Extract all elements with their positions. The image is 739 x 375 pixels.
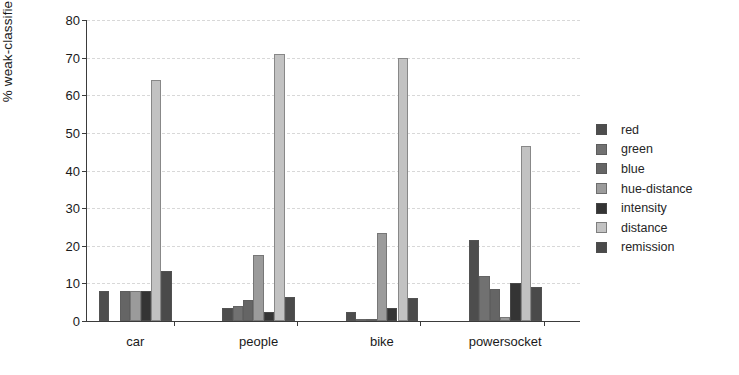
bar bbox=[120, 291, 130, 321]
y-tick-mark bbox=[82, 95, 87, 96]
legend-swatch-icon bbox=[596, 144, 607, 155]
y-tick-mark bbox=[82, 208, 87, 209]
bar bbox=[521, 146, 531, 321]
x-axis-group-label: car bbox=[126, 334, 144, 349]
x-axis-group-label: people bbox=[239, 334, 278, 349]
y-tick-label: 50 bbox=[66, 125, 80, 140]
bar bbox=[346, 312, 356, 321]
x-tick-mark bbox=[174, 321, 175, 326]
bar bbox=[479, 276, 489, 321]
bar bbox=[274, 54, 284, 321]
y-tick-mark bbox=[82, 283, 87, 284]
x-tick-mark bbox=[297, 321, 298, 326]
bar bbox=[531, 287, 541, 321]
y-tick-mark bbox=[82, 246, 87, 247]
legend-item: hue-distance bbox=[596, 179, 736, 199]
bar-chart-figure: % weak-classifier weights 01020304050607… bbox=[0, 0, 739, 375]
legend-label: blue bbox=[621, 162, 645, 176]
legend-item: intensity bbox=[596, 198, 736, 218]
bars-layer bbox=[87, 20, 580, 321]
legend-item: distance bbox=[596, 218, 736, 238]
y-tick-label: 0 bbox=[73, 314, 80, 329]
x-axis-group-label: bike bbox=[370, 334, 394, 349]
bar bbox=[151, 80, 161, 321]
x-tick-mark bbox=[544, 321, 545, 326]
bar bbox=[161, 271, 171, 321]
y-tick-label: 70 bbox=[66, 50, 80, 65]
bar bbox=[366, 319, 376, 321]
y-tick-mark bbox=[82, 58, 87, 59]
legend-swatch-icon bbox=[596, 163, 607, 174]
legend-swatch-icon bbox=[596, 242, 607, 253]
y-tick-mark bbox=[82, 171, 87, 172]
bar bbox=[469, 240, 479, 321]
y-tick-label: 10 bbox=[66, 276, 80, 291]
legend-label: green bbox=[621, 142, 653, 156]
legend-item: green bbox=[596, 140, 736, 160]
legend-label: red bbox=[621, 123, 639, 137]
y-tick-label: 40 bbox=[66, 163, 80, 178]
plot-area: 01020304050607080 carpeoplebikepowersock… bbox=[86, 20, 580, 322]
legend-item: red bbox=[596, 120, 736, 140]
y-tick-label: 30 bbox=[66, 201, 80, 216]
y-tick-label: 20 bbox=[66, 238, 80, 253]
legend-label: distance bbox=[621, 221, 668, 235]
legend-label: intensity bbox=[621, 201, 667, 215]
bar bbox=[377, 233, 387, 321]
bar bbox=[408, 298, 418, 321]
legend: redgreenbluehue-distanceintensitydistanc… bbox=[596, 120, 736, 257]
bar bbox=[141, 291, 151, 321]
bar bbox=[99, 291, 109, 321]
bar bbox=[233, 306, 243, 321]
bar bbox=[356, 319, 366, 321]
legend-item: blue bbox=[596, 159, 736, 179]
legend-item: remission bbox=[596, 238, 736, 258]
bar bbox=[264, 312, 274, 321]
y-tick-mark bbox=[82, 20, 87, 21]
legend-swatch-icon bbox=[596, 124, 607, 135]
bar bbox=[387, 308, 397, 321]
bar bbox=[398, 58, 408, 321]
x-axis-group-label: powersocket bbox=[469, 334, 542, 349]
x-tick-mark bbox=[420, 321, 421, 326]
y-tick-mark bbox=[82, 321, 87, 322]
bar bbox=[222, 308, 232, 321]
bar bbox=[253, 255, 263, 321]
bar bbox=[285, 297, 295, 321]
legend-swatch-icon bbox=[596, 183, 607, 194]
legend-swatch-icon bbox=[596, 222, 607, 233]
y-tick-label: 80 bbox=[66, 13, 80, 28]
bar bbox=[490, 289, 500, 321]
bar bbox=[130, 291, 140, 321]
bar bbox=[510, 283, 520, 321]
bar bbox=[243, 300, 253, 321]
legend-label: remission bbox=[621, 240, 675, 254]
legend-swatch-icon bbox=[596, 203, 607, 214]
y-tick-mark bbox=[82, 133, 87, 134]
bar bbox=[500, 317, 510, 321]
legend-label: hue-distance bbox=[621, 182, 693, 196]
y-tick-label: 60 bbox=[66, 88, 80, 103]
